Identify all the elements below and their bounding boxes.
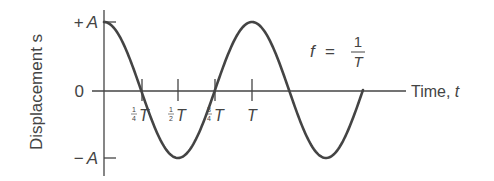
x-axis-label-time: Time, t bbox=[411, 83, 460, 100]
svg-text:4: 4 bbox=[207, 115, 211, 122]
svg-text:T: T bbox=[176, 107, 187, 124]
x-tick-label-quarter: 1 4 T bbox=[131, 106, 150, 124]
svg-text:T: T bbox=[214, 107, 225, 124]
svg-text:2: 2 bbox=[169, 115, 173, 122]
x-tick-label-period: T bbox=[247, 107, 258, 124]
x-tick-label-half: 1 2 T bbox=[168, 106, 187, 124]
y-axis-label: Displacement s bbox=[27, 34, 46, 150]
svg-text:T: T bbox=[139, 107, 150, 124]
y-tick-label-plus-a: +A bbox=[74, 13, 98, 32]
y-tick-label-minus-a: −A bbox=[74, 149, 98, 168]
svg-text:4: 4 bbox=[132, 115, 136, 122]
shm-diagram: Displacement s +A 0 −A 1 4 T 1 2 T 3 4 T… bbox=[0, 0, 494, 181]
svg-text:1: 1 bbox=[132, 106, 136, 113]
y-tick-label-zero: 0 bbox=[75, 82, 84, 101]
svg-text:3: 3 bbox=[207, 106, 211, 113]
frequency-formula: f = 1 T bbox=[310, 33, 365, 70]
svg-text:T: T bbox=[353, 53, 364, 70]
svg-text:1: 1 bbox=[169, 106, 173, 113]
svg-text:f: f bbox=[310, 42, 317, 61]
svg-text:1: 1 bbox=[354, 33, 362, 50]
x-tick-label-three-quarter: 3 4 T bbox=[206, 106, 225, 124]
svg-text:=: = bbox=[325, 42, 335, 61]
